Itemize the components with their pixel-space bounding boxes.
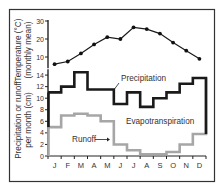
temperature-line: [55, 27, 200, 64]
precip-tick-label: 4: [40, 129, 44, 136]
precip-tick-label: 0: [40, 153, 44, 160]
month-label: N: [184, 161, 189, 170]
month-label: F: [65, 161, 70, 170]
precip-tick-label: 12: [36, 83, 44, 90]
temperature-point: [79, 52, 83, 56]
temperature-series: [53, 25, 202, 66]
month-label: A: [92, 161, 97, 170]
precip-tick-label: 8: [40, 106, 44, 113]
precip-tick-label: 6: [40, 118, 44, 125]
precip-tick-label: 2: [40, 141, 44, 148]
temperature-point: [158, 32, 162, 36]
temp-axis-label-2: (monthly mean): [24, 21, 33, 78]
evapotranspiration-label: Evapotranspiration: [126, 117, 195, 126]
temp-tick-label: 20: [36, 36, 44, 43]
temperature-point: [184, 49, 188, 53]
temperature-axis-title: Temperature (°C) (monthly mean): [14, 18, 33, 81]
month-label: J: [119, 161, 123, 170]
temperature-point: [119, 37, 123, 41]
month-label: M: [78, 161, 84, 170]
month-label: A: [144, 161, 149, 170]
precipitation-leader-line: [113, 83, 119, 91]
temperature-point: [132, 25, 136, 29]
temperature-point: [105, 35, 109, 39]
precip-tick-label: 10: [36, 95, 44, 102]
precipitation-y-axis: 02468101214: [36, 69, 48, 159]
month-label: J: [53, 161, 57, 170]
runoff-label: Runoff: [72, 135, 97, 144]
precip-axis-label-2: per month (cm): [24, 92, 33, 148]
temp-tick-label: 10: [36, 54, 44, 61]
temperature-point: [198, 57, 202, 61]
temperature-point: [53, 62, 57, 66]
temperature-y-axis: 102030: [36, 18, 48, 69]
month-x-axis: JFMAMJJASOND: [48, 156, 206, 170]
temp-axis-label-1: Temperature (°C): [14, 18, 23, 81]
temperature-point: [92, 43, 96, 47]
month-label: O: [170, 161, 176, 170]
precip-axis-title: Precipitation or runoff per month (cm): [14, 80, 33, 158]
month-label: J: [132, 161, 136, 170]
month-label: S: [157, 161, 162, 170]
temp-tick-label: 30: [36, 18, 44, 25]
climate-chart: Temperature (°C) (monthly mean) Precipit…: [0, 0, 218, 188]
month-label: D: [197, 161, 203, 170]
temperature-point: [145, 27, 149, 31]
temperature-point: [171, 41, 175, 45]
precip-tick-label: 14: [36, 72, 44, 79]
runoff-arrow-icon: [95, 138, 110, 142]
temperature-point: [66, 60, 70, 64]
precipitation-label: Precipitation: [121, 74, 167, 83]
precip-axis-label-1: Precipitation or runoff: [14, 80, 23, 158]
month-label: M: [104, 161, 110, 170]
